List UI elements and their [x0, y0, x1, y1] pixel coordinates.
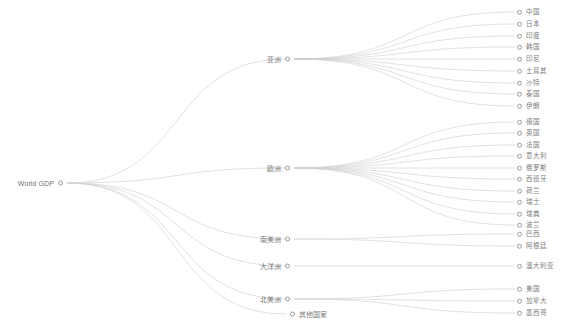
edge-root-to-europe	[67, 168, 286, 183]
tree-node-korea[interactable]: 韩国	[517, 44, 540, 51]
tree-node-uk[interactable]: 英国	[517, 130, 540, 137]
node-label-spain: 西班牙	[526, 176, 547, 183]
node-label-china: 中国	[526, 9, 540, 16]
tree-node-usa[interactable]: 美国	[517, 286, 540, 293]
node-label-argentina: 阿根廷	[526, 243, 547, 250]
tree-node-brazil[interactable]: 巴西	[517, 231, 540, 238]
tree-node-germany[interactable]: 德国	[517, 119, 540, 126]
node-label-korea: 韩国	[526, 44, 540, 51]
node-label-canada: 加拿大	[526, 298, 547, 305]
tree-node-thailand[interactable]: 泰国	[517, 91, 540, 98]
tree-node-italy[interactable]: 意大利	[517, 153, 547, 160]
tree-node-europe[interactable]: 欧洲	[267, 165, 290, 172]
node-label-thailand: 泰国	[526, 91, 540, 98]
node-label-brazil: 巴西	[526, 231, 540, 238]
node-label-netherlands: 荷兰	[526, 188, 540, 195]
node-label-usa: 美国	[526, 286, 540, 293]
tree-node-turkey[interactable]: 土耳其	[517, 68, 547, 75]
tree-diagram: World GDP亚洲欧洲南美洲大洋洲北美洲其他国家中国日本印度韩国印尼土耳其沙…	[0, 0, 565, 330]
edge-root-to-asia	[67, 59, 286, 183]
tree-node-switzerland[interactable]: 瑞士	[517, 199, 540, 206]
node-label-australia: 澳大利亚	[526, 263, 554, 270]
node-circle-icon	[517, 177, 522, 182]
node-circle-icon	[517, 189, 522, 194]
node-label-indonesia: 印尼	[526, 56, 540, 63]
edge-north-america-to-usa	[294, 289, 515, 299]
node-label-asia: 亚洲	[267, 56, 281, 63]
edge-root-to-south-america	[67, 183, 286, 239]
node-circle-icon	[517, 223, 522, 228]
tree-node-japan[interactable]: 日本	[517, 21, 540, 28]
tree-node-indonesia[interactable]: 印尼	[517, 56, 540, 63]
tree-node-netherlands[interactable]: 荷兰	[517, 188, 540, 195]
edge-root-to-oceania	[67, 183, 286, 266]
tree-node-sweden[interactable]: 瑞典	[517, 211, 540, 218]
node-circle-icon	[517, 92, 522, 97]
node-circle-icon	[517, 287, 522, 292]
node-circle-icon	[517, 69, 522, 74]
node-label-north-america: 北美洲	[260, 296, 281, 303]
tree-node-poland[interactable]: 波兰	[517, 222, 540, 229]
edge-root-to-north-america	[67, 183, 286, 299]
edge-root-to-other	[67, 183, 286, 314]
edge-asia-to-turkey	[294, 59, 515, 71]
node-circle-icon	[517, 57, 522, 62]
edge-europe-to-poland	[294, 168, 515, 225]
edge-europe-to-sweden	[294, 168, 515, 214]
node-label-iran: 伊朗	[526, 103, 540, 110]
node-circle-icon	[517, 232, 522, 237]
node-circle-icon	[517, 81, 522, 86]
tree-node-north-america[interactable]: 北美洲	[260, 296, 290, 303]
node-label-france: 法国	[526, 142, 540, 149]
tree-node-spain[interactable]: 西班牙	[517, 176, 547, 183]
node-circle-icon	[285, 57, 290, 62]
node-label-root: World GDP	[18, 180, 54, 187]
tree-node-other[interactable]: 其他国家	[290, 311, 327, 318]
tree-node-argentina[interactable]: 阿根廷	[517, 243, 547, 250]
node-label-turkey: 土耳其	[526, 68, 547, 75]
node-circle-icon	[517, 10, 522, 15]
tree-node-china[interactable]: 中国	[517, 9, 540, 16]
node-circle-icon	[517, 131, 522, 136]
edge-south-america-to-brazil	[294, 234, 515, 239]
node-circle-icon	[517, 244, 522, 249]
node-circle-icon	[517, 45, 522, 50]
tree-node-asia[interactable]: 亚洲	[267, 56, 290, 63]
edge-asia-to-korea	[294, 47, 515, 59]
node-circle-icon	[517, 154, 522, 159]
tree-node-iran[interactable]: 伊朗	[517, 103, 540, 110]
node-circle-icon	[517, 34, 522, 39]
tree-node-australia[interactable]: 澳大利亚	[517, 263, 554, 270]
node-label-other: 其他国家	[299, 311, 327, 318]
node-circle-icon	[517, 212, 522, 217]
node-circle-icon	[517, 200, 522, 205]
node-label-sweden: 瑞典	[526, 211, 540, 218]
node-circle-icon	[517, 264, 522, 269]
tree-node-root[interactable]: World GDP	[18, 180, 63, 187]
tree-node-russia[interactable]: 俄罗斯	[517, 165, 547, 172]
node-label-italy: 意大利	[526, 153, 547, 160]
tree-node-oceania[interactable]: 大洋洲	[260, 263, 290, 270]
node-label-japan: 日本	[526, 21, 540, 28]
edge-europe-to-italy	[294, 156, 515, 168]
node-label-mexico: 墨西哥	[526, 310, 547, 317]
node-circle-icon	[285, 166, 290, 171]
node-circle-icon	[517, 299, 522, 304]
node-circle-icon	[517, 22, 522, 27]
tree-node-canada[interactable]: 加拿大	[517, 298, 547, 305]
node-circle-icon	[285, 264, 290, 269]
edge-south-america-to-argentina	[294, 239, 515, 246]
node-circle-icon	[290, 312, 295, 317]
tree-node-france[interactable]: 法国	[517, 142, 540, 149]
node-circle-icon	[517, 311, 522, 316]
tree-node-india[interactable]: 印度	[517, 33, 540, 40]
node-label-poland: 波兰	[526, 222, 540, 229]
tree-node-south-america[interactable]: 南美洲	[260, 236, 290, 243]
node-circle-icon	[517, 120, 522, 125]
edge-europe-to-netherlands	[294, 168, 515, 191]
tree-node-saudi[interactable]: 沙特	[517, 80, 540, 87]
node-label-south-america: 南美洲	[260, 236, 281, 243]
edge-asia-to-china	[294, 12, 515, 59]
edge-asia-to-thailand	[294, 59, 515, 94]
tree-node-mexico[interactable]: 墨西哥	[517, 310, 547, 317]
